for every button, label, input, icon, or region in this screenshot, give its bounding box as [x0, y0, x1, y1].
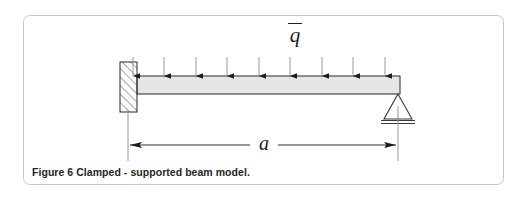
- load-symbol-q-bar: q: [281, 18, 309, 48]
- load-symbol-glyph: q: [290, 23, 301, 47]
- beam-member: [137, 76, 400, 94]
- dimension-label-a: a: [250, 130, 278, 156]
- figure-container: q a Figure 6 Clamped - supported beam mo…: [0, 0, 531, 199]
- clamped-support-hatched-block: [120, 62, 137, 112]
- beam-rectangle: [137, 76, 400, 94]
- figure-caption: Figure 6 Clamped - supported beam model.: [32, 166, 412, 178]
- clamped-support: [120, 62, 137, 112]
- distributed-load-arrows: [133, 57, 385, 76]
